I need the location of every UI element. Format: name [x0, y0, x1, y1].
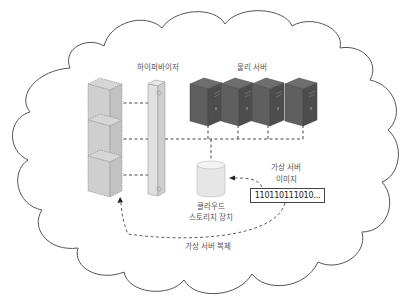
diagram-canvas: 하이퍼바이저 물리 서버 클라우드 스토리지 장치 가상 서버 이미지 1101… — [0, 0, 410, 306]
virtual-servers — [88, 78, 122, 197]
vm-replication-label: 가상 서버 복제 — [178, 242, 238, 252]
vm-image-binary-box: 110110111010... — [250, 188, 325, 203]
physical-servers — [190, 78, 317, 126]
physical-server-3 — [252, 78, 284, 126]
cloud-storage-label-1: 클라우드 — [190, 202, 232, 212]
physical-servers-label: 물리 서버 — [232, 63, 272, 73]
hypervisor-bar — [148, 80, 165, 196]
virtual-server-3 — [88, 150, 122, 197]
vm-image-label-2: 이미지 — [270, 175, 302, 185]
vm-image-label-1: 가상 서버 — [266, 163, 306, 173]
physical-server-2 — [221, 78, 253, 126]
diagram-svg — [0, 0, 410, 306]
hypervisor-label: 하이퍼바이저 — [133, 63, 183, 73]
cloud-storage-label-2: 스토리지 장치 — [180, 213, 242, 223]
physical-server-1 — [190, 78, 222, 126]
cloud-storage-cylinder — [197, 161, 225, 197]
physical-server-4 — [285, 78, 317, 126]
